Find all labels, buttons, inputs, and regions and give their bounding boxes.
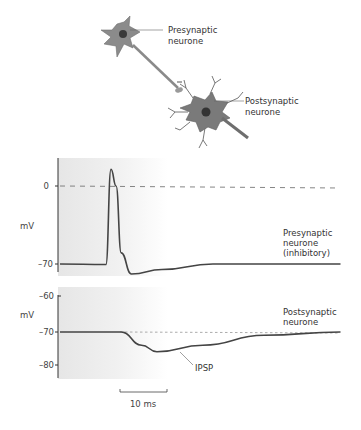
top-tick-label-0: 0 [44,181,49,191]
top-ylabel: mV [20,221,34,231]
postsynaptic-label-line2: neurone [245,107,280,117]
ipsp-annotation: IPSP [195,363,213,373]
presynaptic-series-label-line2: neurone [283,238,318,248]
postsynaptic-series-label-line2: neurone [283,317,318,327]
bottom-tick-label-minus70: –70 [39,327,54,337]
time-scale-bar: 10 ms [120,389,167,409]
postsynaptic-label-line1: Postsynaptic [245,96,299,106]
bottom-tick-label-minus60: –60 [39,291,54,301]
scale-bar-label: 10 ms [130,399,157,409]
presynaptic-label-line2: neurone [168,36,203,46]
scale-bar-line [120,389,167,392]
postsynaptic-nucleus [202,108,211,117]
plot-shade-bottom [58,287,168,379]
postsynaptic-series-label-line1: Postsynaptic [283,307,337,317]
postsynaptic-axon [222,118,248,138]
figure: Presynaptic neurone Postsynaptic neurone… [0,0,361,430]
presynaptic-label-line1: Presynaptic [168,25,218,35]
presynaptic-series-label-line1: Presynaptic [283,228,333,238]
bottom-tick-label-minus80: –80 [39,360,54,370]
top-tick-label-minus70: –70 [38,259,53,269]
ipsp-leader [180,352,193,365]
neurone-diagram: Presynaptic neurone Postsynaptic neurone [101,16,299,148]
presynaptic-axon [133,45,178,88]
bottom-ylabel: mV [20,310,34,320]
presynaptic-series-label-line3: (inhibitory) [283,248,330,258]
presynaptic-nucleus [119,30,127,38]
